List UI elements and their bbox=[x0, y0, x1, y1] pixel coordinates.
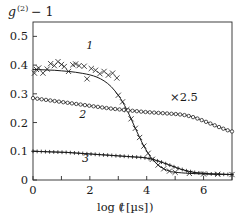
data-point-open-circle bbox=[70, 102, 73, 105]
x-axis-title: log ( t [µs] ) bbox=[97, 200, 154, 214]
data-point-open-circle bbox=[40, 98, 43, 101]
data-point-open-circle bbox=[105, 106, 108, 109]
data-point-open-circle bbox=[88, 104, 91, 107]
data-point-open-circle bbox=[183, 113, 186, 116]
data-point-open-circle bbox=[135, 110, 138, 113]
data-point-open-circle bbox=[122, 108, 125, 111]
x-tick-label: 4 bbox=[143, 183, 150, 197]
data-point-open-circle bbox=[139, 110, 142, 113]
data-point-open-circle bbox=[31, 96, 34, 99]
y-tick-label: 0.3 bbox=[10, 87, 28, 101]
y-tick-label: 0.4 bbox=[10, 58, 28, 72]
data-point-open-circle bbox=[113, 107, 116, 110]
x-tick-label: 6 bbox=[200, 183, 207, 197]
data-point-open-circle bbox=[204, 120, 207, 123]
data-point-open-circle bbox=[200, 118, 203, 121]
data-point-open-circle bbox=[131, 109, 134, 112]
data-point-open-circle bbox=[157, 111, 160, 114]
data-point-open-circle bbox=[53, 99, 56, 102]
y-axis-title-superscript: (2) bbox=[17, 4, 28, 13]
y-axis-title-tail: − 1 bbox=[31, 4, 53, 19]
data-point-open-circle bbox=[213, 124, 216, 127]
data-point-open-circle bbox=[209, 122, 212, 125]
g2-correlation-plot: 0246 00.10.20.30.40.5 123 g (2) − 1 log … bbox=[0, 0, 244, 217]
data-point-open-circle bbox=[165, 112, 168, 115]
data-point-open-circle bbox=[217, 125, 220, 128]
data-point-open-circle bbox=[178, 113, 181, 116]
data-point-open-circle bbox=[161, 111, 164, 114]
data-point-open-circle bbox=[57, 100, 60, 103]
data-point-open-circle bbox=[144, 110, 147, 113]
data-point-open-circle bbox=[196, 117, 199, 120]
curve-label-3: 3 bbox=[82, 152, 89, 165]
x-tick-label: 0 bbox=[29, 183, 36, 197]
data-point-open-circle bbox=[96, 105, 99, 108]
data-point-open-circle bbox=[187, 114, 190, 117]
data-point-open-circle bbox=[230, 130, 233, 133]
data-point-open-circle bbox=[148, 111, 151, 114]
data-point-open-circle bbox=[152, 111, 155, 114]
x-axis-title-unit: [µs] bbox=[126, 200, 148, 214]
data-point-open-circle bbox=[226, 129, 229, 132]
data-point-open-circle bbox=[83, 103, 86, 106]
y-axis-title: g (2) − 1 bbox=[8, 4, 53, 19]
scale-annotation: ×2.5 bbox=[170, 90, 198, 104]
data-point-open-circle bbox=[49, 99, 52, 102]
data-point-open-circle bbox=[36, 97, 39, 100]
data-point-open-circle bbox=[62, 101, 65, 104]
y-axis-title-base: g bbox=[8, 4, 16, 19]
curve-label-1: 1 bbox=[86, 39, 93, 52]
y-tick-label: 0.1 bbox=[10, 144, 28, 158]
data-point-open-circle bbox=[92, 105, 95, 108]
y-tick-label: 0.2 bbox=[10, 116, 28, 130]
data-point-open-circle bbox=[174, 112, 177, 115]
y-tick-label: 0 bbox=[21, 173, 28, 187]
data-point-open-circle bbox=[75, 102, 78, 105]
x-axis-title-variable: t bbox=[120, 200, 125, 214]
data-point-open-circle bbox=[44, 98, 47, 101]
data-point-open-circle bbox=[126, 109, 129, 112]
data-point-open-circle bbox=[191, 115, 194, 118]
data-point-open-circle bbox=[109, 107, 112, 110]
x-axis-title-close: ) bbox=[149, 200, 154, 214]
data-point-open-circle bbox=[118, 108, 121, 111]
data-point-open-circle bbox=[170, 112, 173, 115]
data-point-open-circle bbox=[222, 127, 225, 130]
data-point-open-circle bbox=[101, 106, 104, 109]
x-tick-label: 2 bbox=[86, 183, 93, 197]
data-point-open-circle bbox=[66, 101, 69, 104]
y-tick-label: 0.5 bbox=[10, 29, 28, 43]
curve-label-2: 2 bbox=[78, 108, 86, 121]
data-point-open-circle bbox=[79, 103, 82, 106]
